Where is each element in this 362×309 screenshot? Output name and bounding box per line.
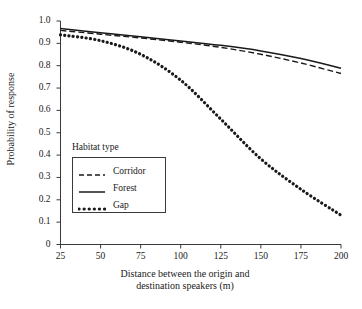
legend-entry-gap: Gap bbox=[78, 197, 129, 213]
chart-figure: Probability of response Distance between… bbox=[0, 0, 362, 309]
y-tick-label: 0 bbox=[21, 239, 51, 249]
x-tick-label: 100 bbox=[161, 251, 201, 261]
y-tick-label: 0.3 bbox=[21, 171, 51, 181]
x-axis-title: Distance between the origin and destinat… bbox=[40, 268, 330, 292]
legend-label: Gap bbox=[113, 200, 129, 210]
chart-plot-area bbox=[0, 0, 362, 309]
y-tick-label: 0.4 bbox=[21, 149, 51, 159]
legend-swatch-dashed bbox=[78, 166, 106, 176]
x-tick-label: 200 bbox=[321, 251, 361, 261]
y-tick-label: 0.1 bbox=[21, 216, 51, 226]
legend-label: Corridor bbox=[113, 166, 146, 176]
y-tick-label: 0.2 bbox=[21, 194, 51, 204]
series-line-forest bbox=[61, 29, 342, 69]
legend-swatch-dotted bbox=[78, 200, 106, 210]
y-tick-label: 0.5 bbox=[21, 127, 51, 137]
y-tick-label: 0.6 bbox=[21, 104, 51, 114]
legend-entry-corridor: Corridor bbox=[78, 163, 146, 179]
y-axis-title: Probability of response bbox=[5, 19, 17, 219]
y-axis-ticks bbox=[57, 21, 61, 245]
x-tick-label: 150 bbox=[241, 251, 281, 261]
x-tick-label: 75 bbox=[121, 251, 161, 261]
series-line-corridor bbox=[61, 30, 342, 73]
y-tick-label: 0.7 bbox=[21, 82, 51, 92]
y-tick-label: 1.0 bbox=[21, 15, 51, 25]
legend-swatch-solid bbox=[78, 183, 106, 193]
y-tick-label: 0.9 bbox=[21, 37, 51, 47]
y-axis-title-wrapper: Probability of response bbox=[5, 19, 19, 219]
x-tick-label: 25 bbox=[41, 251, 81, 261]
legend-title: Habitat type bbox=[72, 142, 119, 152]
x-tick-label: 175 bbox=[281, 251, 321, 261]
x-axis-ticks bbox=[61, 245, 342, 249]
x-tick-label: 50 bbox=[81, 251, 121, 261]
x-tick-label: 125 bbox=[201, 251, 241, 261]
legend-label: Forest bbox=[113, 183, 137, 193]
y-tick-label: 0.8 bbox=[21, 60, 51, 70]
legend-entry-forest: Forest bbox=[78, 180, 137, 196]
